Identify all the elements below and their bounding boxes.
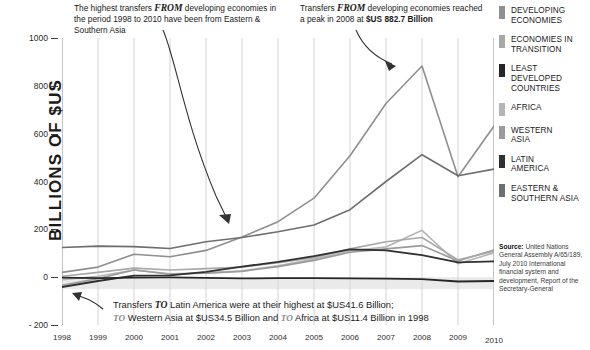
y-axis-tick-mark bbox=[51, 325, 58, 326]
y-axis-tick-label: 0 bbox=[2, 272, 48, 282]
y-axis-tick-label: 1000 bbox=[2, 33, 48, 43]
y-axis-tick-label: 200 bbox=[2, 224, 48, 234]
legend: DEVELOPINGECONOMIESECONOMIES INTRANSITIO… bbox=[499, 6, 590, 213]
legend-item-label: EASTERN &SOUTHERN ASIA bbox=[511, 184, 579, 204]
legend-item-label: AFRICA bbox=[511, 103, 542, 113]
source-label: Source: bbox=[499, 243, 524, 250]
y-axis-tick-mark bbox=[51, 134, 58, 135]
legend-item-label-line2: AMERICA bbox=[511, 164, 549, 173]
x-axis-tick-label: 1999 bbox=[81, 333, 115, 342]
x-axis-tick-label: 2003 bbox=[225, 333, 259, 342]
x-axis-tick-label: 2002 bbox=[189, 333, 223, 342]
x-axis-tick-label: 2005 bbox=[297, 333, 331, 342]
legend-item-label: ECONOMIES INTRANSITION bbox=[511, 35, 573, 55]
x-axis-tick-label: 2006 bbox=[333, 333, 367, 342]
y-axis-tick-mark bbox=[51, 277, 58, 278]
legend-item-label-line2: TRANSITION bbox=[511, 45, 562, 54]
annotation-bottom-emphasis3: TO bbox=[281, 313, 293, 323]
x-axis-tick-label: 1998 bbox=[45, 333, 79, 342]
legend-swatch-icon bbox=[499, 64, 505, 77]
x-axis-tick-label: 2008 bbox=[405, 333, 439, 342]
legend-swatch-icon bbox=[499, 184, 505, 197]
y-axis-tick-label: 600 bbox=[2, 129, 48, 139]
x-axis-tick-label: 2004 bbox=[261, 333, 295, 342]
chart-figure: BILLIONS OF $US 10008006004002000- 200 1… bbox=[0, 0, 590, 350]
legend-swatch-icon bbox=[499, 35, 505, 48]
annotation-top-right: Transfers FROM developing economies reac… bbox=[300, 2, 486, 25]
y-axis-tick-label: - 200 bbox=[2, 320, 48, 330]
legend-item-label-line2: COUNTRIES bbox=[511, 84, 560, 93]
y-axis-tick-mark bbox=[51, 38, 58, 39]
annotation-top-right-value: $US 882.7 Billion bbox=[366, 14, 433, 24]
annotation-bottom-emphasis1: TO bbox=[155, 299, 168, 310]
legend-item-label: LATINAMERICA bbox=[511, 155, 549, 175]
chart-svg bbox=[62, 38, 494, 325]
annotation-top-left-text1: The highest transfers bbox=[74, 3, 154, 13]
y-axis-tick-mark bbox=[51, 229, 58, 230]
legend-item-label-line2: ECONOMIES bbox=[511, 16, 562, 25]
legend-item[interactable]: EASTERN &SOUTHERN ASIA bbox=[499, 184, 590, 204]
y-axis-tick-mark bbox=[51, 182, 58, 183]
legend-item[interactable]: AFRICA bbox=[499, 103, 590, 116]
x-axis-tick-label: 2009 bbox=[441, 333, 475, 342]
annotation-bottom-text4: Africa at $US11.4 Billion in 1998 bbox=[293, 312, 429, 323]
x-axis-tick-label: 2001 bbox=[153, 333, 187, 342]
annotation-bottom: Transfers TO Latin America were at their… bbox=[113, 299, 485, 324]
x-axis-tick-label: 2010 bbox=[477, 336, 511, 345]
legend-item[interactable]: DEVELOPINGECONOMIES bbox=[499, 6, 590, 26]
annotation-top-right-emphasis: FROM bbox=[337, 2, 365, 13]
x-axis-tick-label: 2007 bbox=[369, 333, 403, 342]
legend-swatch-icon bbox=[499, 155, 505, 168]
legend-item-label: LEAST DEVELOPEDCOUNTRIES bbox=[511, 64, 590, 93]
legend-swatch-icon bbox=[499, 6, 505, 19]
source-note: Source: United Nations General Assembly … bbox=[499, 243, 587, 293]
legend-item-label: DEVELOPINGECONOMIES bbox=[511, 6, 565, 26]
x-axis-tick-label: 2000 bbox=[117, 333, 151, 342]
legend-swatch-icon bbox=[499, 126, 505, 139]
legend-item[interactable]: LEAST DEVELOPEDCOUNTRIES bbox=[499, 64, 590, 93]
annotation-bottom-text1: Transfers bbox=[113, 299, 155, 310]
legend-item[interactable]: LATINAMERICA bbox=[499, 155, 590, 175]
y-axis-tick-label: 800 bbox=[2, 81, 48, 91]
annotation-top-left-emphasis: FROM bbox=[154, 2, 182, 13]
legend-item[interactable]: ECONOMIES INTRANSITION bbox=[499, 35, 590, 55]
legend-item-label-line2: SOUTHERN ASIA bbox=[511, 194, 579, 203]
annotation-bottom-text3: Western Asia at $US34.5 Billion and bbox=[125, 312, 281, 323]
annotation-bottom-emphasis2: TO bbox=[113, 313, 125, 323]
plot-area bbox=[62, 38, 494, 325]
annotation-bottom-text2: Latin America were at their highest at $… bbox=[167, 299, 393, 310]
source-text: United Nations General Assembly A/65/189… bbox=[499, 243, 582, 292]
y-axis-tick-mark bbox=[51, 86, 58, 87]
legend-item-label-line2: ASIA bbox=[511, 135, 530, 144]
y-axis-tick-label: 400 bbox=[2, 177, 48, 187]
legend-swatch-icon bbox=[499, 103, 505, 116]
legend-item[interactable]: WESTERNASIA bbox=[499, 126, 590, 146]
annotation-top-left: The highest transfers FROM developing ec… bbox=[74, 2, 288, 36]
annotation-top-right-text1: Transfers bbox=[300, 3, 337, 13]
legend-item-label: WESTERNASIA bbox=[511, 126, 553, 146]
